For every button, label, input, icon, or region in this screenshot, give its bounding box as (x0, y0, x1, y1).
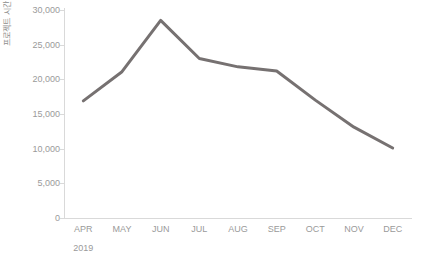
x-axis-line (64, 218, 412, 219)
y-axis-tick-mark (60, 10, 64, 11)
x-axis-tick-label: NOV (344, 224, 364, 234)
x-axis-tick-label: JUN (152, 224, 170, 234)
y-axis-line (64, 8, 65, 219)
x-axis-tick-label: AUG (228, 224, 248, 234)
y-axis-tick-label: 20,000 (14, 74, 60, 84)
x-axis-tick-label: SEP (268, 224, 286, 234)
y-axis-title: 프로젝트 시간 (1, 0, 12, 54)
x-axis-tick-label: OCT (306, 224, 325, 234)
x-axis-tick-labels: APRMAYJUNJULAUGSEPOCTNOVDEC (0, 224, 423, 240)
x-axis-group-label: 2019 (73, 243, 93, 253)
y-axis-tick-label: 30,000 (14, 5, 60, 15)
y-axis-tick-label: 25,000 (14, 40, 60, 50)
y-axis-tick-mark (60, 114, 64, 115)
y-axis-tick-label: 15,000 (14, 109, 60, 119)
y-axis-tick-mark (60, 45, 64, 46)
y-axis-tick-label: 10,000 (14, 144, 60, 154)
y-axis-tick-mark (60, 218, 64, 219)
line-chart: 프로젝트 시간 05,00010,00015,00020,00025,00030… (0, 0, 423, 271)
y-axis-tick-label: 5,000 (14, 178, 60, 188)
y-axis-tick-label: 0 (14, 213, 60, 223)
x-axis-tick-label: DEC (383, 224, 402, 234)
x-axis-tick-label: MAY (113, 224, 132, 234)
y-axis-tick-mark (60, 183, 64, 184)
x-axis-tick-label: JUL (191, 224, 207, 234)
x-axis-tick-label: APR (74, 224, 93, 234)
y-axis-tick-mark (60, 79, 64, 80)
y-axis-tick-mark (60, 149, 64, 150)
